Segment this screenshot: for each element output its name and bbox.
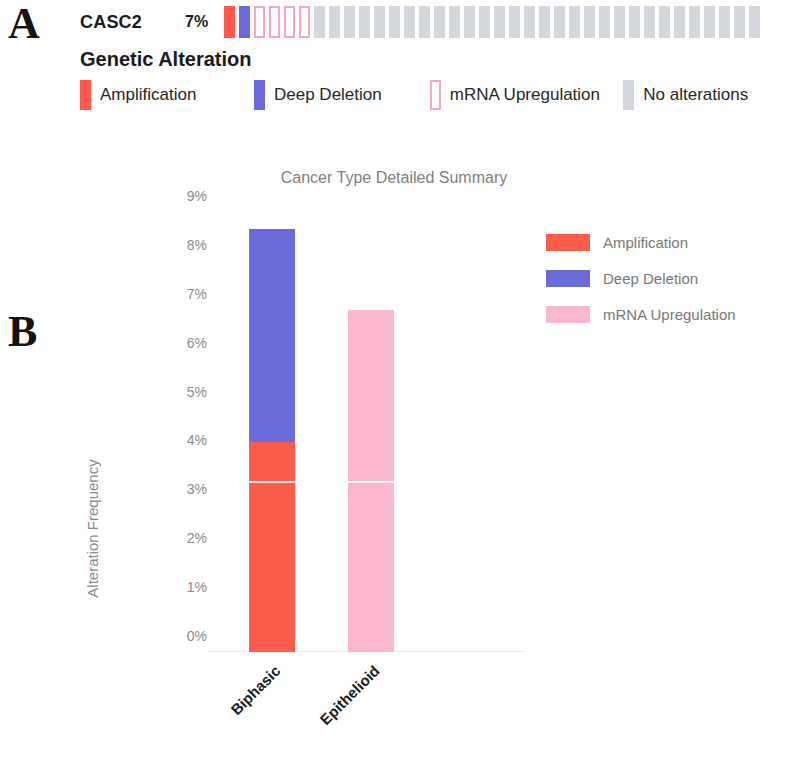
- y-axis-tick-label: 8%: [187, 237, 207, 253]
- oncoprint-cell[interactable]: [509, 6, 520, 38]
- oncoprint-cell[interactable]: [239, 6, 250, 38]
- oncoprint-cell[interactable]: [254, 6, 265, 38]
- bar-segment-divider: [249, 481, 295, 483]
- panel-label-a: A: [8, 2, 40, 46]
- legend-item-label: Amplification: [100, 85, 196, 105]
- chart-legend-item[interactable]: Deep Deletion: [546, 260, 736, 296]
- oncoprint-cell[interactable]: [464, 6, 475, 38]
- y-axis-tick-label: 0%: [187, 628, 207, 644]
- oncoprint-cell[interactable]: [749, 6, 760, 38]
- legend-swatch-icon: [623, 80, 634, 110]
- genetic-alteration-legend-item: Deep Deletion: [254, 80, 430, 110]
- oncoprint-cell[interactable]: [359, 6, 370, 38]
- bar-group[interactable]: Epithelioid: [348, 310, 394, 652]
- oncoprint-cell[interactable]: [569, 6, 580, 38]
- chart-legend-label: Amplification: [603, 234, 688, 251]
- oncoprint-cell[interactable]: [389, 6, 400, 38]
- chart-legend-label: Deep Deletion: [603, 270, 698, 287]
- oncoprint-cell[interactable]: [269, 6, 280, 38]
- bar-group[interactable]: Biphasic: [249, 229, 295, 652]
- y-axis-tick-label: 6%: [187, 335, 207, 351]
- oncoprint-cell[interactable]: [659, 6, 670, 38]
- oncoprint-cell[interactable]: [224, 6, 235, 38]
- oncoprint-cell[interactable]: [284, 6, 295, 38]
- legend-item-label: No alterations: [643, 85, 748, 105]
- bar-segment[interactable]: [249, 442, 295, 652]
- legend-swatch-icon: [546, 306, 590, 323]
- oncoprint-cell[interactable]: [704, 6, 715, 38]
- legend-swatch-icon: [546, 270, 590, 287]
- x-axis-tick-label: Epithelioid: [317, 662, 383, 728]
- bar-segment[interactable]: [249, 229, 295, 442]
- oncoprint-cell[interactable]: [674, 6, 685, 38]
- legend-swatch-icon: [254, 80, 265, 110]
- oncoprint-cell[interactable]: [329, 6, 340, 38]
- panel-label-b: B: [8, 310, 37, 354]
- plot-area: 0%1%2%3%4%5%6%7%8%9%BiphasicEpithelioid: [216, 212, 526, 652]
- oncoprint-cell[interactable]: [404, 6, 415, 38]
- genetic-alteration-legend-item: Amplification: [80, 80, 254, 110]
- oncoprint-cell[interactable]: [599, 6, 610, 38]
- chart-legend: AmplificationDeep DeletionmRNA Upregulat…: [546, 224, 736, 332]
- oncoprint-cell[interactable]: [614, 6, 625, 38]
- gene-alteration-percent: 7%: [162, 13, 222, 31]
- y-axis-tick-label: 9%: [187, 188, 207, 204]
- legend-swatch-icon: [546, 234, 590, 251]
- chart-panel: B Cancer Type Detailed Summary Alteratio…: [0, 150, 799, 769]
- oncoprint-cell[interactable]: [539, 6, 550, 38]
- oncoprint-cell[interactable]: [299, 6, 310, 38]
- genetic-alteration-legend-item: mRNA Upregulation: [430, 80, 624, 110]
- chart-legend-item[interactable]: mRNA Upregulation: [546, 296, 736, 332]
- oncoprint-cell[interactable]: [449, 6, 460, 38]
- y-axis-tick-label: 3%: [187, 481, 207, 497]
- y-axis-tick-label: 7%: [187, 286, 207, 302]
- chart-legend-label: mRNA Upregulation: [603, 306, 736, 323]
- oncoprint-cell[interactable]: [524, 6, 535, 38]
- oncoprint-cell[interactable]: [644, 6, 655, 38]
- bar-segment-divider: [348, 481, 394, 483]
- legend-swatch-icon: [430, 80, 441, 110]
- oncoprint-cell-track: [224, 6, 760, 38]
- genetic-alteration-title: Genetic Alteration: [80, 48, 252, 71]
- genetic-alteration-legend-item: No alterations: [623, 80, 792, 110]
- oncoprint-cell[interactable]: [554, 6, 565, 38]
- y-axis-tick-label: 4%: [187, 432, 207, 448]
- oncoprint-gene-row: CASC2 7%: [80, 5, 760, 39]
- oncoprint-cell[interactable]: [434, 6, 445, 38]
- oncoprint-panel: A CASC2 7% Genetic Alteration Amplificat…: [0, 0, 799, 150]
- chart-title: Cancer Type Detailed Summary: [249, 169, 539, 187]
- legend-swatch-icon: [80, 80, 91, 110]
- y-axis-title: Alteration Frequency: [84, 414, 101, 644]
- gene-name-label: CASC2: [80, 12, 162, 33]
- oncoprint-cell[interactable]: [719, 6, 730, 38]
- y-axis-tick-label: 1%: [187, 579, 207, 595]
- y-axis-tick-label: 2%: [187, 530, 207, 546]
- genetic-alteration-legend: AmplificationDeep DeletionmRNA Upregulat…: [80, 80, 792, 110]
- oncoprint-cell[interactable]: [374, 6, 385, 38]
- oncoprint-cell[interactable]: [314, 6, 325, 38]
- oncoprint-cell[interactable]: [494, 6, 505, 38]
- y-axis-tick-label: 5%: [187, 384, 207, 400]
- legend-item-label: Deep Deletion: [274, 85, 382, 105]
- oncoprint-cell[interactable]: [734, 6, 745, 38]
- oncoprint-cell[interactable]: [629, 6, 640, 38]
- x-axis-tick-label: Biphasic: [228, 662, 284, 718]
- oncoprint-cell[interactable]: [479, 6, 490, 38]
- legend-item-label: mRNA Upregulation: [450, 85, 600, 105]
- oncoprint-cell[interactable]: [689, 6, 700, 38]
- oncoprint-cell[interactable]: [419, 6, 430, 38]
- oncoprint-cell[interactable]: [584, 6, 595, 38]
- chart-legend-item[interactable]: Amplification: [546, 224, 736, 260]
- oncoprint-cell[interactable]: [344, 6, 355, 38]
